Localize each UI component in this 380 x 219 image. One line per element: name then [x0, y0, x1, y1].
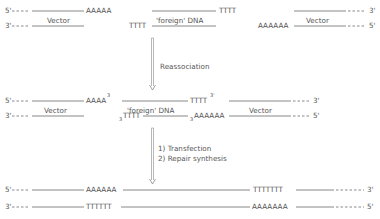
foreign-dna-label: 'foreign' DNA [156, 16, 203, 25]
top-strand-3prime-label: 3' [367, 185, 374, 194]
step-reassociation-label: Reassociation [160, 62, 210, 71]
bottom-strand-3prime-label: 3' [5, 111, 12, 120]
step-repair-synthesis-label: 2) Repair synthesis [158, 154, 227, 163]
poly-t-tail: TTTT [128, 21, 147, 30]
row1-left-vector: 5' AAAAA 3' Vector [5, 6, 111, 30]
bottom-strand-5prime-label: 5' [313, 111, 320, 120]
svg-text:3: 3 [190, 116, 193, 122]
poly-a-tail: AAAAAA [258, 21, 289, 30]
bottom-strand-5prime-label: 5' [369, 21, 376, 30]
dna-cloning-diagram: 5' AAAAA 3' Vector TTTT TTTT 'foreign' D… [0, 0, 380, 219]
row1-foreign-dna: TTTT TTTT 'foreign' DNA [128, 6, 237, 30]
bottom-strand-5prime-label: 5' [367, 202, 374, 211]
row1-right-vector: 3' AAAAAA 5' Vector [258, 6, 376, 30]
top-strand-3prime-label: 3' [369, 6, 376, 15]
top-strand-3prime-label: 3' [313, 96, 320, 105]
poly-t-tract: TTTTTTT [252, 185, 284, 194]
vector-label: Vector [44, 106, 67, 115]
transfection-arrow: 1) Transfection 2) Repair synthesis [150, 128, 228, 184]
svg-text:3': 3' [210, 92, 215, 98]
poly-a-tract: AAAAAAA [252, 202, 288, 211]
top-strand-5prime-label: 5' [5, 6, 12, 15]
poly-a-tail: AAAAA [86, 6, 111, 15]
vector-label: Vector [249, 106, 272, 115]
poly-a-tail: AAAA [86, 96, 106, 105]
vector-label: Vector [47, 16, 70, 25]
bottom-strand-3prime-label: 3' [5, 202, 12, 211]
bottom-strand-3prime-label: 3' [5, 21, 12, 30]
vector-label: Vector [306, 16, 329, 25]
poly-t-tail: TTTT [189, 96, 208, 105]
row2-annealed: 5' AAAA 3 3' Vector 3 TTTT 'foreign' DNA… [5, 92, 320, 122]
poly-a-tail: AAAAAA [194, 111, 225, 120]
poly-t-tail: TTTT [218, 6, 237, 15]
reassociation-arrow: Reassociation [150, 38, 210, 90]
step-transfection-label: 1) Transfection [158, 144, 211, 153]
poly-t-tract: TTTTTT [85, 202, 112, 211]
foreign-dna-label: 'foreign' DNA [127, 106, 174, 115]
svg-text:3: 3 [119, 116, 122, 122]
top-strand-5prime-label: 5' [5, 185, 12, 194]
top-strand-5prime-label: 5' [5, 96, 12, 105]
svg-text:3: 3 [107, 92, 110, 98]
poly-a-tract: AAAAAA [86, 185, 117, 194]
row3-recombinant: 5' AAAAAA TTTTTTT 3' 3' TTTTTT AAAAAAA 5… [5, 185, 374, 211]
